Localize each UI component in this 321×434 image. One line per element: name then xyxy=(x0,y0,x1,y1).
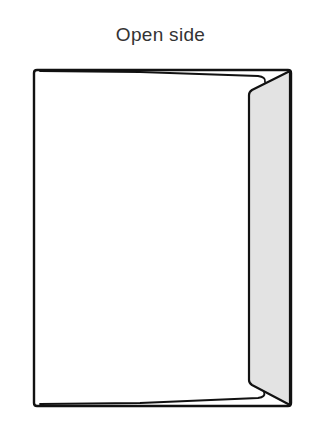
envelope-diagram xyxy=(0,0,321,434)
open-side-flap xyxy=(249,71,290,405)
